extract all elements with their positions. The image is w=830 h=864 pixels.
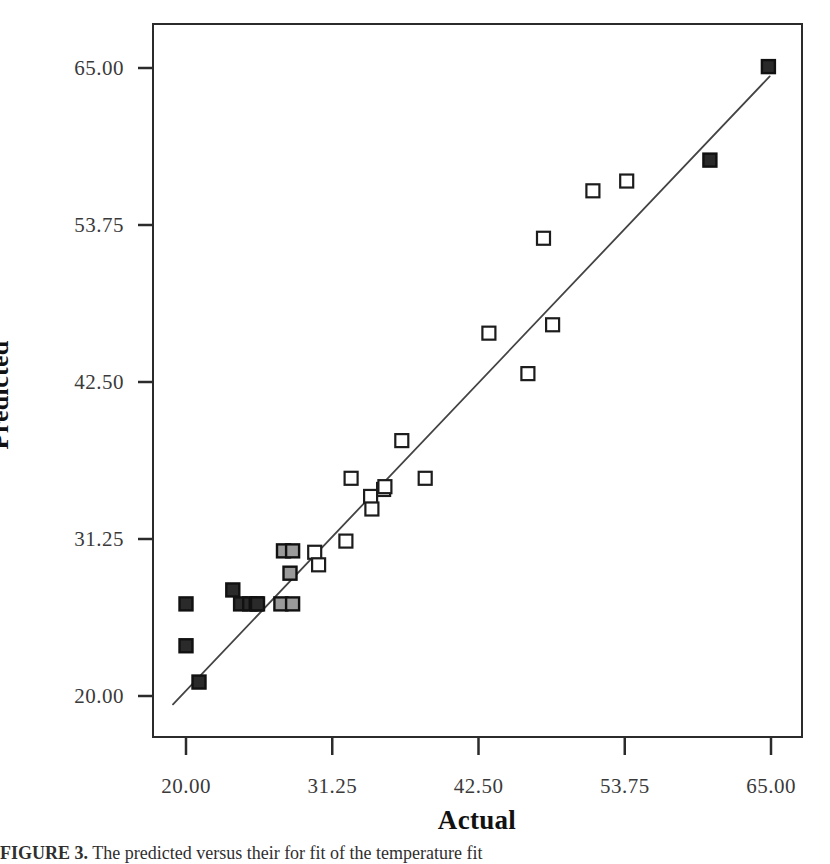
- x-tick-label: 53.75: [600, 774, 650, 799]
- x-tick-label: 20.00: [161, 774, 211, 799]
- y-tick-label: 31.25: [0, 527, 124, 552]
- y-tick-label: 53.75: [0, 213, 124, 238]
- x-tick-label: 31.25: [307, 774, 357, 799]
- x-tick-label: 42.50: [454, 774, 504, 799]
- x-axis-title: Actual: [438, 805, 516, 836]
- figure-caption-label: FIGURE 3.: [0, 843, 88, 863]
- plot-frame: [152, 23, 803, 738]
- figure-caption: FIGURE 3. The predicted versus their for…: [0, 843, 830, 864]
- figure-caption-text: The predicted versus their for fit of th…: [92, 843, 482, 863]
- y-tick-label: 65.00: [0, 56, 124, 81]
- y-axis-title: Predicted: [0, 340, 15, 449]
- x-tick-label: 65.00: [746, 774, 796, 799]
- y-tick-label: 20.00: [0, 684, 124, 709]
- y-tick-label: 42.50: [0, 370, 124, 395]
